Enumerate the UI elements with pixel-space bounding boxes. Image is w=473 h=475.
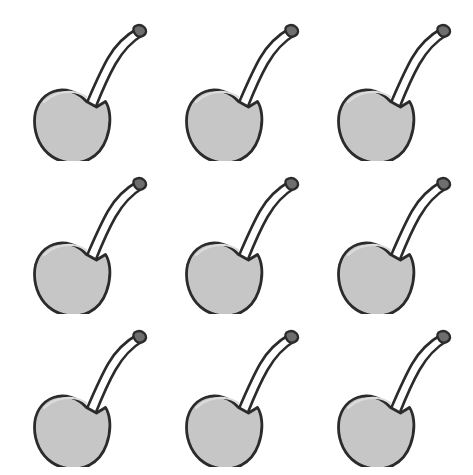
cherry-item: Cherry 3 <box>318 8 470 161</box>
cherry-item: Cherry 7 <box>14 314 166 467</box>
cherry-item: Cherry 6 <box>318 161 470 314</box>
cherry-item: Cherry 8 <box>166 314 318 467</box>
cherry-icon <box>166 161 318 314</box>
cherry-icon <box>14 8 166 161</box>
image-canvas: Cherry illustration grid A three by thre… <box>0 0 473 475</box>
cherry-item: Cherry 9 <box>318 314 470 467</box>
cherry-icon <box>318 161 470 314</box>
cherry-icon <box>14 314 166 467</box>
cherry-item: Cherry 2 <box>166 8 318 161</box>
cherry-item: Cherry 4 <box>14 161 166 314</box>
cherry-item: Cherry 5 <box>166 161 318 314</box>
cherry-icon <box>166 314 318 467</box>
cherry-grid: Cherry 1 Cherry 2 <box>0 0 473 475</box>
cherry-item: Cherry 1 <box>14 8 166 161</box>
cherry-icon <box>318 8 470 161</box>
cherry-icon <box>14 161 166 314</box>
cherry-icon <box>318 314 470 467</box>
cherry-icon <box>166 8 318 161</box>
